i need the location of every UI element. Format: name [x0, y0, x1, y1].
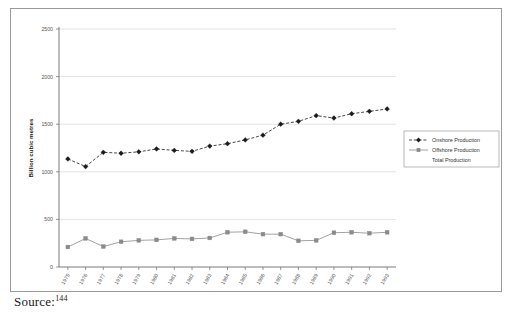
legend-label-1: Offshore Production — [432, 147, 480, 153]
x-axis-tick-label: 1981 — [166, 272, 177, 285]
y-axis-tick-label: 1000 — [41, 169, 53, 175]
data-point-marker — [155, 238, 159, 242]
data-point-marker — [297, 239, 301, 243]
data-point-marker — [332, 116, 337, 121]
data-point-marker — [350, 230, 354, 234]
data-point-marker — [243, 230, 247, 234]
data-point-marker — [172, 237, 176, 241]
source-footnote-number: 144 — [55, 294, 68, 303]
x-axis-tick-label: 1987 — [273, 272, 284, 285]
data-point-marker — [314, 113, 319, 118]
data-point-marker — [349, 111, 354, 116]
y-axis-title: Billion cubic metres — [27, 118, 34, 177]
x-axis-tick-label: 1979 — [131, 272, 142, 285]
data-point-marker — [314, 238, 318, 242]
legend-label-2: Total Production — [432, 157, 471, 163]
data-point-marker — [279, 232, 283, 236]
data-point-marker — [278, 122, 283, 127]
data-point-marker — [190, 149, 195, 154]
x-axis-tick-label: 1986 — [255, 272, 266, 285]
data-point-marker — [385, 230, 389, 234]
x-axis-tick-label: 1984 — [219, 272, 230, 285]
data-point-marker — [119, 240, 123, 244]
source-caption: Source:144 — [14, 294, 68, 310]
x-axis-tick-label: 1992 — [361, 272, 372, 285]
data-point-marker — [226, 230, 230, 234]
y-axis-tick-label: 2000 — [41, 74, 53, 80]
data-point-marker — [154, 147, 159, 152]
x-axis-tick-label: 1978 — [113, 272, 124, 285]
data-point-marker — [296, 119, 301, 124]
legend-swatch-marker-1 — [417, 148, 421, 152]
x-axis-tick-label: 1988 — [290, 272, 301, 285]
x-axis-tick-label: 1975 — [60, 272, 71, 285]
data-point-marker — [65, 157, 70, 162]
x-axis-tick-label: 1990 — [326, 272, 337, 285]
data-point-marker — [84, 237, 88, 241]
data-point-marker — [137, 238, 141, 242]
y-axis-tick-label: 500 — [44, 216, 53, 222]
x-axis-tick-label: 1985 — [237, 272, 248, 285]
data-point-marker — [66, 245, 70, 249]
x-axis-tick-label: 1993 — [379, 272, 390, 285]
data-point-marker — [101, 245, 105, 249]
y-axis-tick-label: 2500 — [41, 26, 53, 32]
x-axis-tick-label: 1980 — [148, 272, 159, 285]
y-axis-tick-label: 1500 — [41, 121, 53, 127]
x-axis-tick-label: 1982 — [184, 272, 195, 285]
data-point-marker — [261, 133, 266, 138]
data-point-marker — [225, 141, 230, 146]
y-axis-tick-label: 0 — [50, 264, 53, 270]
x-axis-tick-label: 1991 — [344, 272, 355, 285]
figure-frame: 05001000150020002500Billion cubic metres… — [10, 8, 502, 292]
data-point-marker — [136, 149, 141, 154]
source-label: Source: — [14, 294, 55, 309]
data-point-marker — [332, 231, 336, 235]
screenshot-page: 05001000150020002500Billion cubic metres… — [0, 0, 514, 316]
data-point-marker — [208, 236, 212, 240]
data-point-marker — [261, 232, 265, 236]
data-point-marker — [190, 237, 194, 241]
data-point-marker — [172, 148, 177, 153]
x-axis-tick-label: 1989 — [308, 272, 319, 285]
series-line-0 — [68, 109, 387, 167]
data-point-marker — [119, 151, 124, 156]
x-axis-tick-label: 1976 — [78, 272, 89, 285]
x-axis-tick-label: 1977 — [95, 272, 106, 285]
data-point-marker — [367, 109, 372, 114]
data-point-marker — [367, 231, 371, 235]
data-point-marker — [385, 107, 390, 112]
data-point-marker — [207, 144, 212, 149]
data-point-marker — [243, 138, 248, 143]
production-line-chart: 05001000150020002500Billion cubic metres… — [11, 9, 501, 291]
legend-label-0: Onshore Production — [432, 137, 480, 143]
x-axis-tick-label: 1983 — [202, 272, 213, 285]
